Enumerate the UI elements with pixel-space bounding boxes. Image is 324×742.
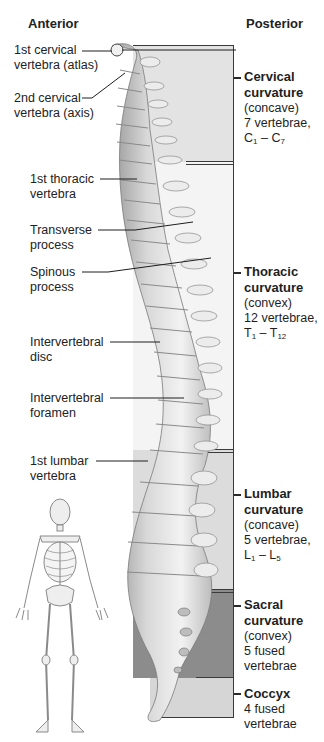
label-atlas-line1: 1st cervical bbox=[14, 43, 77, 57]
lumbar-range: L1 – L5 bbox=[244, 548, 311, 566]
coccyx-description: Coccyx 4 fused vertebrae bbox=[244, 686, 297, 732]
thoracic-lumbar-divider bbox=[208, 449, 234, 453]
lumbar-count: 5 vertebrae, bbox=[244, 533, 311, 548]
lumbar-sacral-divider bbox=[181, 589, 234, 593]
sacral-region-panel bbox=[133, 590, 234, 678]
sacral-shape: (convex) bbox=[244, 629, 303, 644]
coccyx-tick bbox=[234, 693, 241, 695]
sacral-count: 5 fused bbox=[244, 644, 303, 659]
label-first-lumbar: 1st lumbar vertebra bbox=[30, 454, 88, 484]
label-axis: 2nd cervical vertebra (axis) bbox=[14, 91, 94, 121]
sacral-coccyx-divider bbox=[196, 677, 234, 679]
lumbar-shape: (concave) bbox=[244, 518, 311, 533]
cervical-thoracic-divider bbox=[186, 161, 234, 165]
cervical-title-2: curvature bbox=[244, 85, 311, 101]
lumbar-title: Lumbar bbox=[244, 486, 311, 502]
sacral-title: Sacral bbox=[244, 597, 303, 613]
label-axis-line1: 2nd cervical bbox=[14, 91, 81, 105]
sacral-count-2: vertebrae bbox=[244, 659, 303, 674]
coccyx-count: 4 fused bbox=[244, 702, 297, 717]
sacral-tick bbox=[234, 605, 241, 607]
label-foramen-line2: foramen bbox=[30, 406, 104, 421]
label-spinous-line1: Spinous bbox=[30, 265, 75, 279]
label-intervertebral-foramen: Intervertebral foramen bbox=[30, 391, 104, 421]
cervical-count: 7 vertebrae, bbox=[244, 116, 311, 131]
label-spinous-process: Spinous process bbox=[30, 265, 75, 295]
atlas-ring-icon bbox=[111, 44, 123, 56]
label-first-thoracic-line2: vertebra bbox=[30, 187, 94, 202]
posterior-heading: Posterior bbox=[246, 16, 303, 31]
cervical-shape: (concave) bbox=[244, 101, 311, 116]
label-axis-line2: vertebra (axis) bbox=[14, 106, 94, 121]
lumbar-description: Lumbar curvature (concave) 5 vertebrae, … bbox=[244, 486, 311, 566]
cervical-title: Cervical bbox=[244, 69, 311, 85]
thoracic-tick bbox=[234, 272, 241, 274]
skeleton-icon bbox=[16, 499, 108, 732]
thoracic-range: T1 – T12 bbox=[244, 326, 318, 344]
cervical-description: Cervical curvature (concave) 7 vertebrae… bbox=[244, 69, 311, 149]
coccyx-count-2: vertebrae bbox=[244, 717, 297, 732]
coccyx-title: Coccyx bbox=[244, 686, 297, 702]
label-disc-line2: disc bbox=[30, 350, 104, 365]
label-first-lumbar-line2: vertebra bbox=[30, 469, 88, 484]
cervical-range: C1 – C7 bbox=[244, 131, 311, 149]
coccyx-region-panel bbox=[150, 678, 234, 718]
thoracic-title-2: curvature bbox=[244, 280, 318, 296]
cervical-region-panel bbox=[133, 45, 234, 162]
anterior-heading: Anterior bbox=[28, 16, 79, 31]
label-transverse-line1: Transverse bbox=[30, 223, 92, 237]
thoracic-region-panel bbox=[133, 162, 234, 450]
lumbar-region-panel bbox=[133, 450, 234, 590]
label-transverse-process: Transverse process bbox=[30, 223, 92, 253]
cervical-tick bbox=[234, 77, 241, 79]
label-atlas-line2: vertebra (atlas) bbox=[14, 58, 98, 73]
label-first-thoracic-line1: 1st thoracic bbox=[30, 172, 94, 186]
label-atlas: 1st cervical vertebra (atlas) bbox=[14, 43, 98, 73]
thoracic-title: Thoracic bbox=[244, 264, 318, 280]
label-first-lumbar-line1: 1st lumbar bbox=[30, 454, 88, 468]
sacral-title-2: curvature bbox=[244, 613, 303, 629]
label-disc-line1: Intervertebral bbox=[30, 335, 104, 349]
sacral-description: Sacral curvature (convex) 5 fused verteb… bbox=[244, 597, 303, 674]
thoracic-count: 12 vertebrae, bbox=[244, 311, 318, 326]
lumbar-tick bbox=[234, 494, 241, 496]
label-spinous-line2: process bbox=[30, 280, 75, 295]
thoracic-description: Thoracic curvature (convex) 12 vertebrae… bbox=[244, 264, 318, 344]
lumbar-title-2: curvature bbox=[244, 502, 311, 518]
label-first-thoracic: 1st thoracic vertebra bbox=[30, 172, 94, 202]
label-intervertebral-disc: Intervertebral disc bbox=[30, 335, 104, 365]
label-foramen-line1: Intervertebral bbox=[30, 391, 104, 405]
label-transverse-line2: process bbox=[30, 238, 92, 253]
thoracic-shape: (convex) bbox=[244, 296, 318, 311]
